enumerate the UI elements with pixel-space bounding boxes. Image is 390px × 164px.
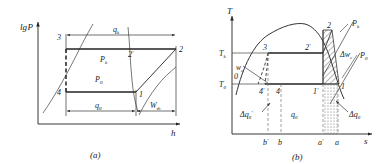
panel-b-leader-wc [243,66,268,83]
panel-b-tick-label-a: a [335,138,339,147]
panel-b-leader-dq0prime [262,103,270,112]
panel-a-heat-q0-label: q0 [95,101,102,111]
panel-b-caption: (b) [292,152,303,162]
panel-b-isentropic-curve [265,53,268,84]
panel-b-y-axis-label: T [227,6,233,16]
figure-container: lgP h 3 4 1 2 2′ Pk P0 qk q0 Wth (a) [0,0,390,164]
panel-b-point-2: 2 [327,21,331,30]
panel-b-point-0: 0 [234,72,238,81]
panel-a-point-2: 2 [179,45,183,54]
panel-a-heat-qk-label: qk [113,25,120,35]
panel-a-x-axis-label: h [171,128,176,138]
panel-b-isobar-pk-label: Pk [351,19,360,29]
panel-a-point-4: 4 [57,88,61,97]
panel-a-point-2-prime: 2′ [128,50,134,59]
panel-a-compression-line [136,49,176,92]
panel-b-heat-q0-label: q0 [291,110,298,120]
panel-a-pressure-p0-label: P0 [94,75,103,85]
panel-a-saturated-liquid-curve [43,24,93,113]
panel-b-point-4-prime: 4′ [259,87,265,96]
panel-a-caption: (a) [90,150,101,160]
panel-b-point-1: 1 [341,82,345,91]
panel-b-delta-wc-label: Δwc [339,50,353,60]
panel-b-tick-label-tk: Tk [219,49,226,59]
panel-b: T s Tk T0 3 2′ 2 4′ 4 1′ 1 0 wc Δwc Pk [219,6,372,162]
panel-a-work-wth-label: Wth [150,101,161,111]
panel-b-isobar-p0-label: P0 [359,51,368,61]
panel-b-delta-q0-prime-label: Δq0′ [239,110,253,120]
panel-b-tick-label-b: b [278,138,282,147]
panel-a-y-axis-label: lgP [20,22,34,32]
panel-a-point-3: 3 [56,33,61,42]
panel-b-x-axis-label: s [364,136,368,146]
panel-a-pressure-pk-label: Pk [99,55,108,65]
panel-b-tick-label-bprime: b′ [263,138,269,147]
panel-b-point-2-prime: 2′ [305,43,311,52]
panel-b-tick-label-t0: T0 [219,80,226,90]
panel-b-work-wc-label: wc [236,63,244,73]
panel-a-saturated-vapor-curve [128,27,138,112]
panel-b-area-delta-q0 [323,84,338,134]
panel-b-point-1-prime: 1′ [313,87,319,96]
panel-b-area-delta-wc [323,30,339,84]
panel-a: lgP h 3 4 1 2 2′ Pk P0 qk q0 Wth (a) [20,22,183,160]
panel-a-point-1: 1 [139,90,143,99]
panel-b-delta-q0-label: Δq0 [348,110,361,120]
figure-svg: lgP h 3 4 1 2 2′ Pk P0 qk q0 Wth (a) [0,0,390,164]
panel-b-point-3: 3 [262,43,267,52]
panel-b-leader-pk [340,24,348,32]
panel-b-tick-label-aprime: a′ [318,138,324,147]
panel-b-point-4: 4 [276,87,280,96]
